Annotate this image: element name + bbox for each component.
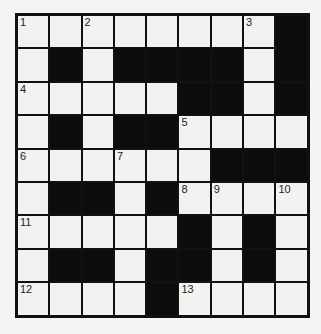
black-cell (49, 182, 81, 215)
crossword-cell[interactable] (17, 115, 49, 148)
crossword-cell[interactable] (82, 82, 114, 115)
black-cell (82, 249, 114, 282)
crossword-grid: 12345678910111213 (15, 13, 310, 318)
crossword-cell[interactable] (211, 249, 243, 282)
crossword-cell[interactable]: 6 (17, 149, 49, 182)
crossword-cell[interactable]: 11 (17, 215, 49, 248)
crossword-cell[interactable] (114, 182, 146, 215)
clue-number: 7 (117, 151, 123, 162)
crossword-cell[interactable] (114, 82, 146, 115)
crossword-cell[interactable] (49, 15, 81, 48)
clue-number: 3 (246, 17, 252, 28)
black-cell (146, 282, 178, 315)
crossword-cell[interactable] (146, 215, 178, 248)
black-cell (82, 182, 114, 215)
clue-number: 9 (214, 184, 220, 195)
crossword-cell[interactable] (49, 149, 81, 182)
crossword-cell[interactable] (211, 282, 243, 315)
crossword-cell[interactable] (49, 215, 81, 248)
crossword-cell[interactable] (82, 48, 114, 81)
crossword-cell[interactable]: 3 (243, 15, 275, 48)
crossword-cell[interactable] (82, 115, 114, 148)
crossword-cell[interactable]: 4 (17, 82, 49, 115)
crossword-cell[interactable] (17, 249, 49, 282)
black-cell (243, 249, 275, 282)
black-cell (146, 182, 178, 215)
crossword-cell[interactable] (275, 115, 307, 148)
black-cell (49, 115, 81, 148)
black-cell (178, 48, 210, 81)
crossword-cell[interactable]: 13 (178, 282, 210, 315)
crossword-cell[interactable]: 5 (178, 115, 210, 148)
crossword-cell[interactable] (82, 149, 114, 182)
clue-number: 11 (20, 217, 31, 228)
crossword-cell[interactable] (275, 249, 307, 282)
crossword-cell[interactable] (146, 82, 178, 115)
crossword-cell[interactable] (146, 149, 178, 182)
crossword-cell[interactable] (114, 15, 146, 48)
black-cell (275, 82, 307, 115)
black-cell (275, 48, 307, 81)
crossword-cell[interactable] (49, 82, 81, 115)
crossword-cell[interactable]: 10 (275, 182, 307, 215)
crossword-cell[interactable] (211, 115, 243, 148)
clue-number: 2 (85, 17, 91, 28)
crossword-cell[interactable]: 8 (178, 182, 210, 215)
crossword-cell[interactable] (211, 215, 243, 248)
crossword-cell[interactable] (275, 215, 307, 248)
black-cell (49, 48, 81, 81)
black-cell (178, 215, 210, 248)
crossword-cell[interactable] (178, 149, 210, 182)
black-cell (114, 48, 146, 81)
black-cell (178, 82, 210, 115)
black-cell (146, 48, 178, 81)
clue-number: 12 (20, 284, 32, 295)
crossword-cell[interactable] (243, 282, 275, 315)
clue-number: 8 (181, 184, 187, 195)
crossword-cell[interactable] (82, 215, 114, 248)
black-cell (146, 249, 178, 282)
clue-number: 4 (20, 84, 26, 95)
black-cell (211, 82, 243, 115)
crossword-cell[interactable] (178, 15, 210, 48)
crossword-cell[interactable] (114, 215, 146, 248)
crossword-cell[interactable]: 2 (82, 15, 114, 48)
crossword-cell[interactable] (49, 282, 81, 315)
black-cell (211, 149, 243, 182)
crossword-cell[interactable]: 1 (17, 15, 49, 48)
crossword-cell[interactable] (211, 15, 243, 48)
clue-number: 10 (278, 184, 290, 195)
crossword-cell[interactable] (243, 115, 275, 148)
crossword-cell[interactable] (17, 182, 49, 215)
black-cell (49, 249, 81, 282)
black-cell (275, 149, 307, 182)
crossword-cell[interactable]: 9 (211, 182, 243, 215)
crossword-cell[interactable] (82, 282, 114, 315)
crossword-cell[interactable] (114, 249, 146, 282)
crossword-cell[interactable] (275, 282, 307, 315)
black-cell (114, 115, 146, 148)
crossword-cell[interactable] (243, 48, 275, 81)
crossword-cell[interactable] (146, 15, 178, 48)
black-cell (146, 115, 178, 148)
clue-number: 1 (20, 17, 26, 28)
black-cell (243, 215, 275, 248)
black-cell (275, 15, 307, 48)
crossword-cell[interactable]: 12 (17, 282, 49, 315)
crossword-cell[interactable] (243, 82, 275, 115)
clue-number: 13 (181, 284, 193, 295)
clue-number: 5 (181, 117, 187, 128)
crossword-cell[interactable] (243, 182, 275, 215)
black-cell (243, 149, 275, 182)
clue-number: 6 (20, 151, 26, 162)
black-cell (211, 48, 243, 81)
black-cell (178, 249, 210, 282)
crossword-cell[interactable] (17, 48, 49, 81)
crossword-cell[interactable]: 7 (114, 149, 146, 182)
crossword-cell[interactable] (114, 282, 146, 315)
